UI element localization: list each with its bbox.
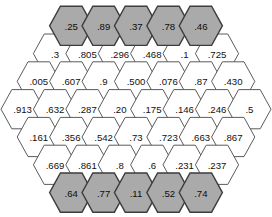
hex-row-group-plain bbox=[1, 34, 271, 184]
hexagon-grid-figure: .25.89.37.78.46.3.805.296.468.1.725.005.… bbox=[0, 0, 272, 217]
hexagon-grid-canvas: .25.89.37.78.46.3.805.296.468.1.725.005.… bbox=[0, 0, 272, 217]
